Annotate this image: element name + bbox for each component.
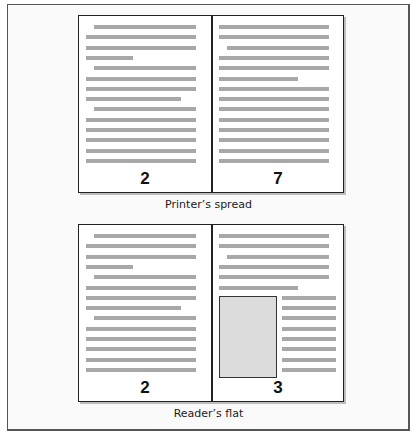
printers-spread: 2 7 [78,15,344,193]
printers-spread-caption: Printer’s spread [0,198,417,211]
text-line [86,56,133,60]
text-line [219,275,329,279]
text-line [86,286,196,290]
text-line [86,159,196,163]
left-page: 2 [79,225,211,401]
text-line [219,25,329,29]
page-number: 7 [212,169,344,189]
text-line [219,265,329,269]
text-line [282,347,336,351]
text-line [86,358,196,362]
text-line [86,296,196,300]
text-line [86,306,181,310]
left-page: 2 [79,16,211,192]
text-line [282,368,336,372]
text-line [219,286,298,290]
text-line [219,159,329,163]
text-line [86,97,181,101]
text-line [282,358,336,362]
text-line [86,337,196,341]
text-line [219,56,329,60]
text-line [227,46,329,50]
text-line [94,107,196,111]
text-line [219,118,329,122]
text-line [219,66,329,70]
text-line [219,234,329,238]
right-page: 7 [212,16,344,192]
readers-flat: 2 3 [78,224,344,402]
text-line [86,138,196,142]
text-line [86,244,196,248]
text-line [94,234,196,238]
text-line [227,255,329,259]
text-line [219,87,329,91]
text-line [219,97,329,101]
page-number: 2 [79,378,211,398]
right-page: 3 [212,225,344,401]
text-line [86,347,196,351]
text-line [219,138,329,142]
text-line [94,316,196,320]
text-line [86,118,196,122]
text-line [86,149,196,153]
text-line [219,35,329,39]
text-line [282,306,336,310]
text-line [282,316,336,320]
text-line [86,368,196,372]
page-number: 3 [212,378,344,398]
text-line [86,77,196,81]
text-line [219,149,329,153]
text-line [282,296,336,300]
text-line [86,46,196,50]
text-line [219,244,329,248]
text-line [94,25,196,29]
text-line [86,35,196,39]
text-line [86,87,196,91]
image-placeholder [219,296,277,378]
text-line [86,128,196,132]
text-line [86,265,133,269]
text-line [86,255,196,259]
page-number: 2 [79,169,211,189]
text-line [219,77,298,81]
text-line [282,327,336,331]
text-line [282,337,336,341]
text-line [86,327,196,331]
text-line [219,107,329,111]
text-line [94,66,196,70]
text-line [219,128,329,132]
readers-flat-caption: Reader’s flat [0,407,417,420]
text-line [94,275,196,279]
